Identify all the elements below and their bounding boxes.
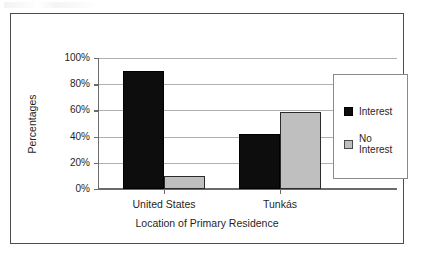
legend-label-no-interest: NoInterest — [359, 133, 392, 155]
bar-united-states-no-interest[interactable] — [164, 176, 205, 189]
legend-item-no-interest[interactable]: NoInterest — [344, 134, 392, 155]
x-axis-category-label-united-states: United States — [132, 198, 195, 210]
x-tick-united-states — [164, 189, 165, 194]
bar-united-states-interest[interactable] — [123, 71, 164, 189]
y-tick-label-80: 80% — [70, 79, 90, 89]
chart-legend: Interest NoInterest — [333, 74, 408, 179]
legend-label-interest: Interest — [359, 106, 392, 117]
y-tick-100 — [94, 58, 99, 59]
legend-label-no-interest-line1: No — [359, 133, 372, 144]
scan-artifact — [4, 2, 100, 8]
chart-frame: Percentages 100% 80% 60% 40% 20% 0% Unit… — [10, 13, 404, 244]
x-tick-tunkas — [280, 189, 281, 194]
bar-tunkas-no-interest[interactable] — [280, 112, 321, 189]
y-tick-label-20: 20% — [70, 158, 90, 168]
legend-swatch-black-square-icon — [344, 107, 353, 116]
y-tick-label-0: 0% — [76, 184, 90, 194]
legend-swatch-gray-square-icon — [344, 140, 353, 149]
y-axis-title: Percentages — [25, 64, 39, 184]
gridline-100 — [99, 58, 397, 59]
y-tick-60 — [94, 110, 99, 111]
y-tick-label-100: 100% — [64, 53, 90, 63]
y-tick-40 — [94, 137, 99, 138]
y-tick-80 — [94, 84, 99, 85]
legend-item-interest[interactable]: Interest — [344, 106, 392, 117]
legend-label-no-interest-line2: Interest — [359, 144, 392, 155]
y-tick-label-60: 60% — [70, 105, 90, 115]
x-axis-category-label-tunkas: Tunkás — [263, 198, 297, 210]
y-axis-title-label: Percentages — [26, 95, 38, 154]
y-tick-20 — [94, 163, 99, 164]
bar-tunkas-interest[interactable] — [239, 134, 280, 189]
y-tick-label-40: 40% — [70, 132, 90, 142]
x-axis-title: Location of Primary Residence — [11, 217, 403, 229]
